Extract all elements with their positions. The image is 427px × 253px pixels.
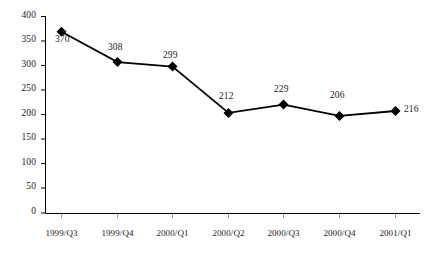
x-axis-tick-label: 2000/Q1 xyxy=(144,228,202,238)
data-point-label: 299 xyxy=(163,50,178,60)
data-point-label: 206 xyxy=(330,90,345,100)
x-axis-tick-label: 1999/Q3 xyxy=(33,228,91,238)
data-point-label: 308 xyxy=(108,42,123,52)
data-point-marker xyxy=(391,106,401,116)
x-axis-tick-label: 2000/Q2 xyxy=(200,228,258,238)
line-chart: 400 350 300 250 200 150 100 50 0 xyxy=(0,0,427,253)
x-axis-tick-label: 2000/Q4 xyxy=(311,228,369,238)
x-axis-tick-label: 2001/Q1 xyxy=(367,228,425,238)
data-point-label: 212 xyxy=(219,91,234,101)
data-point-label: 216 xyxy=(404,104,419,114)
data-point-marker xyxy=(335,111,345,121)
data-point-label: 229 xyxy=(274,84,289,94)
data-point-marker xyxy=(113,57,123,67)
x-axis-tick-label: 1999/Q4 xyxy=(89,228,147,238)
data-point-label: 370 xyxy=(55,34,70,44)
x-axis-tick-label: 2000/Q3 xyxy=(255,228,313,238)
data-point-marker xyxy=(279,100,289,110)
